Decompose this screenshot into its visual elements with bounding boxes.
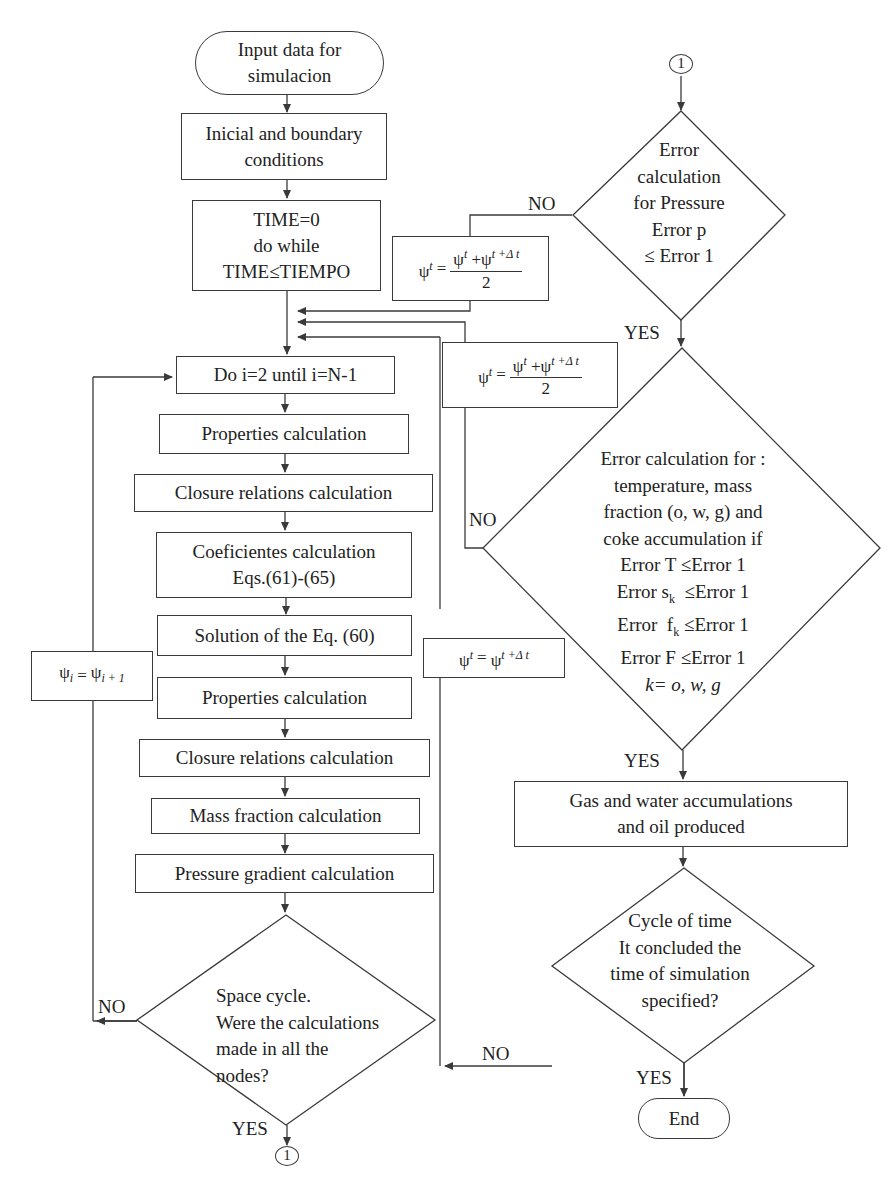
mass-fraction-box: Mass fraction calculation xyxy=(151,798,420,834)
connector-1-top: 1 xyxy=(669,54,693,74)
properties-calculation-box-2: Properties calculation xyxy=(157,677,412,719)
accumulations-box: Gas and water accumulations and oil prod… xyxy=(514,781,848,847)
pressure-gradient-box: Pressure gradient calculation xyxy=(135,854,434,893)
coefficients-calculation-box: Coeficientes calculation Eqs.(61)-(65) xyxy=(156,532,412,598)
label-no-space: NO xyxy=(98,996,125,1018)
formula-lhs: ψi xyxy=(59,660,73,691)
average-formula-box-1: ψt = ψt +ψt +Δ t 2 xyxy=(392,236,549,301)
label-no-multi: NO xyxy=(469,509,496,531)
average-formula-box-2: ψt = ψt +ψt +Δ t 2 xyxy=(442,342,618,408)
time-cycle-text: Cycle of time It concluded the time of s… xyxy=(580,908,780,1014)
closure-relations-box-1: Closure relations calculation xyxy=(134,474,433,512)
formula-rhs: ψi + 1 xyxy=(91,660,125,691)
time-loop-box: TIME=0 do while TIME≤TIEMPO xyxy=(192,200,381,291)
start-terminal: Input data for simulacion xyxy=(195,31,384,95)
fraction: ψt +ψt +Δ t 2 xyxy=(450,243,522,294)
multi-error-text: Error calculation for : temperature, mas… xyxy=(572,446,794,698)
fraction: ψt +ψt +Δ t 2 xyxy=(510,350,582,401)
label-yes-multi: YES xyxy=(624,750,660,772)
initial-boundary-conditions-box: Inicial and boundary conditions xyxy=(181,113,387,180)
closure-relations-box-2: Closure relations calculation xyxy=(139,739,430,777)
time-advance-formula-box: ψt = ψt +Δ t xyxy=(423,638,565,678)
connector-1-bottom: 1 xyxy=(275,1146,299,1166)
do-loop-box: Do i=2 until i=N-1 xyxy=(176,356,395,394)
label-yes-time: YES xyxy=(636,1067,672,1089)
shift-index-formula-box: ψi = ψi + 1 xyxy=(31,651,153,701)
label-no-time: NO xyxy=(482,1043,509,1065)
end-terminal: End xyxy=(638,1098,730,1139)
pressure-error-text: Error calculation for Pressure Error p ≤… xyxy=(604,137,754,270)
label-no-pressure: NO xyxy=(528,193,555,215)
label-yes-space: YES xyxy=(232,1118,268,1140)
label-yes-pressure: YES xyxy=(624,322,660,344)
solution-eq-60-box: Solution of the Eq. (60) xyxy=(157,615,412,656)
space-cycle-text: Space cycle. Were the calculations made … xyxy=(216,983,416,1089)
properties-calculation-box-1: Properties calculation xyxy=(159,414,409,454)
